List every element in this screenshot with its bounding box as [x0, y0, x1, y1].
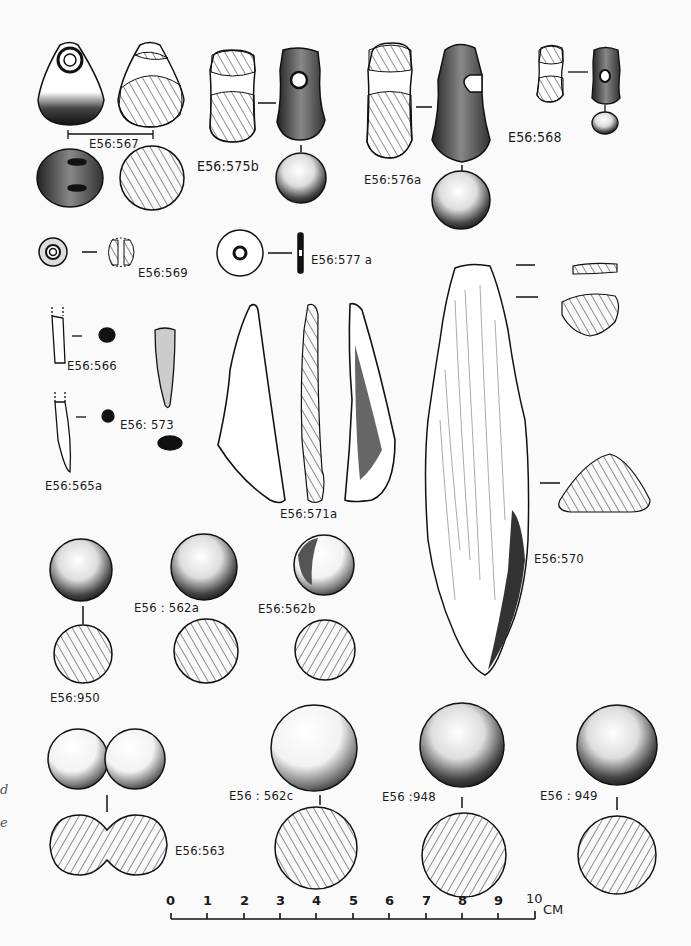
artifact-e56-577a	[217, 230, 303, 276]
label-e56-573: E56: 573	[120, 417, 174, 432]
artifact-e56-565a	[55, 392, 114, 472]
scale-tick-7: 7	[422, 893, 431, 908]
label-e56-563: E56:563	[175, 843, 225, 858]
label-e56-568: E56:568	[508, 129, 562, 145]
scale-tick-9: 9	[494, 893, 503, 908]
artifact-e56-568	[537, 46, 620, 135]
margin-fragment-2: e	[0, 815, 8, 830]
label-e56-562a: E56 : 562a	[134, 600, 199, 615]
artifact-e56-567	[37, 43, 184, 211]
scale-tick-4: 4	[312, 893, 321, 908]
label-e56-949: E56 : 949	[540, 788, 598, 803]
label-e56-562c: E56 : 562c	[229, 788, 293, 803]
label-e56-562b: E56:562b	[258, 601, 316, 616]
artifact-e56-570	[426, 263, 651, 675]
scale-tick-5: 5	[349, 893, 358, 908]
artifact-e56-575b	[210, 48, 326, 203]
scale-tick-8: 8	[458, 893, 467, 908]
label-e56-950: E56:950	[50, 690, 100, 705]
scale-unit: CM	[543, 902, 563, 917]
scale-tick-6: 6	[385, 893, 394, 908]
label-e56-566: E56:566	[67, 358, 117, 373]
label-e56-577a: E56:577 a	[311, 252, 372, 267]
artifact-e56-950	[50, 539, 112, 683]
label-e56-565a: E56:565a	[45, 478, 102, 493]
artifact-e56-569	[39, 238, 134, 267]
artifact-e56-576a	[367, 43, 490, 229]
label-e56-576a: E56:576a	[364, 172, 421, 187]
label-e56-575b: E56:575b	[197, 158, 259, 174]
scale-tick-2: 2	[240, 893, 249, 908]
artifact-e56-566	[52, 307, 115, 363]
artifact-e56-563	[48, 729, 167, 875]
label-e56-571a: E56:571a	[280, 506, 337, 521]
label-e56-567: E56:567	[89, 136, 139, 151]
label-e56-948: E56 :948	[382, 789, 436, 804]
artifact-e56-571a	[218, 304, 395, 503]
scale-tick-0: 0	[166, 893, 175, 908]
scale-bar	[171, 911, 535, 919]
scale-tick-10: 10	[526, 891, 543, 906]
scale-tick-3: 3	[276, 893, 285, 908]
label-e56-570: E56:570	[534, 551, 584, 566]
margin-fragment-1: d	[0, 782, 8, 797]
label-e56-569: E56:569	[138, 265, 188, 280]
scale-tick-1: 1	[203, 893, 212, 908]
